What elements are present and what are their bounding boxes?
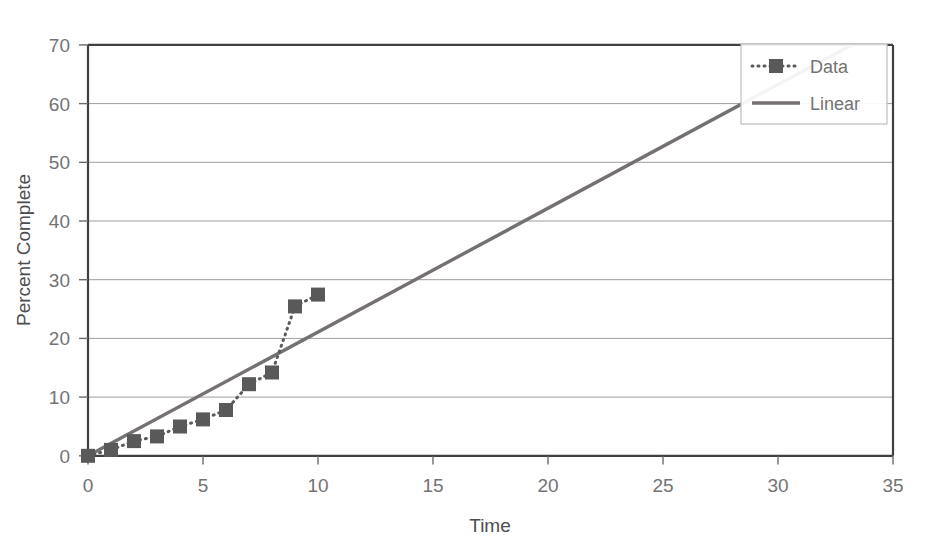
y-tick-label-70: 70 <box>49 35 70 56</box>
y-tick-label-20: 20 <box>49 328 70 349</box>
x-tick-label-15: 15 <box>422 475 443 496</box>
percent-complete-vs-time-chart: 70 60 50 40 30 20 10 0 0 5 10 15 20 25 3… <box>0 0 934 553</box>
x-tick-label-25: 25 <box>652 475 673 496</box>
data-point-marker-2 <box>127 434 141 448</box>
legend-square-marker-icon <box>769 59 783 73</box>
data-point-marker-8 <box>265 366 279 380</box>
x-axis-title: Time <box>469 515 511 536</box>
x-tick-label-30: 30 <box>767 475 788 496</box>
y-axis-title: Percent Complete <box>13 174 34 326</box>
y-tick-label-0: 0 <box>59 446 70 467</box>
y-tick-label-10: 10 <box>49 387 70 408</box>
data-point-marker-9 <box>288 299 302 313</box>
y-tick-label-30: 30 <box>49 270 70 291</box>
data-point-marker-0 <box>81 449 95 463</box>
chart-legend[interactable]: Data Linear <box>741 44 887 124</box>
x-tick-label-0: 0 <box>83 475 94 496</box>
chart-container: 70 60 50 40 30 20 10 0 0 5 10 15 20 25 3… <box>0 0 934 553</box>
legend-label-data: Data <box>810 57 849 77</box>
data-point-marker-10 <box>311 288 325 302</box>
data-point-marker-1 <box>104 443 118 457</box>
x-tick-label-20: 20 <box>537 475 558 496</box>
data-point-marker-7 <box>242 377 256 391</box>
data-point-marker-5 <box>196 412 210 426</box>
data-point-marker-3 <box>150 429 164 443</box>
data-point-marker-6 <box>219 403 233 417</box>
x-tick-label-5: 5 <box>198 475 209 496</box>
y-tick-label-60: 60 <box>49 94 70 115</box>
y-tick-label-50: 50 <box>49 152 70 173</box>
x-tick-label-10: 10 <box>307 475 328 496</box>
data-point-marker-4 <box>173 420 187 434</box>
legend-label-linear: Linear <box>810 94 860 114</box>
y-tick-label-40: 40 <box>49 211 70 232</box>
x-tick-label-35: 35 <box>882 475 903 496</box>
